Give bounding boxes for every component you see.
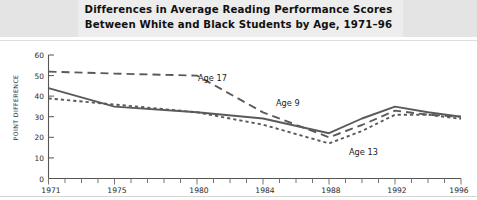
x-tick-label-1988: 1988 — [321, 186, 340, 195]
y-tick-marks — [49, 55, 55, 158]
x-tick-labels: 1971 1975 1980 1984 1988 1992 1996 — [41, 186, 468, 195]
series-label-age-9: Age 9 — [276, 98, 300, 108]
series-label-age-17: Age 17 — [198, 73, 227, 83]
axes-group — [49, 55, 462, 179]
y-tick-label-30: 30 — [35, 113, 45, 122]
x-tick-label-1996: 1996 — [449, 186, 468, 195]
y-tick-label-10: 10 — [35, 154, 45, 163]
y-tick-label-20: 20 — [35, 133, 45, 142]
x-tick-label-1971: 1971 — [41, 186, 60, 195]
y-tick-labels: 60 50 40 30 20 10 0 — [35, 51, 45, 184]
line-chart: 60 50 40 30 20 10 0 — [0, 0, 477, 200]
x-tick-marks — [49, 179, 462, 185]
x-tick-label-1980: 1980 — [189, 186, 208, 195]
x-tick-label-1984: 1984 — [255, 186, 274, 195]
y-tick-label-0: 0 — [39, 175, 44, 184]
x-tick-label-1992: 1992 — [387, 186, 406, 195]
x-tick-label-1975: 1975 — [107, 186, 126, 195]
series-label-age-13: Age 13 — [349, 147, 378, 157]
chart-page: Differences in Average Reading Performan… — [0, 0, 477, 200]
y-tick-label-40: 40 — [35, 92, 45, 101]
y-tick-label-60: 60 — [35, 51, 45, 60]
y-tick-label-50: 50 — [35, 72, 45, 81]
series-lines — [49, 72, 462, 144]
